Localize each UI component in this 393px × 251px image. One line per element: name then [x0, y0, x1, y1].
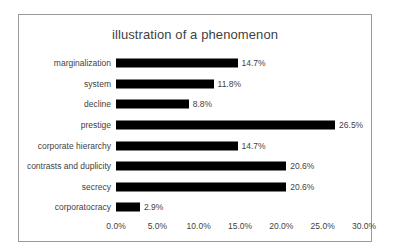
bar	[116, 100, 189, 109]
bar-value-label: 20.6%	[286, 161, 314, 171]
category-label: marginalization	[19, 58, 111, 68]
x-tick-label: 25.0%	[311, 221, 335, 231]
bar-track: 26.5%	[116, 115, 373, 136]
bar-track: 11.8%	[116, 74, 373, 95]
x-tick-label: 15.0%	[228, 221, 252, 231]
bar-track: 14.7%	[116, 53, 373, 74]
bar-value-label: 26.5%	[335, 120, 363, 130]
category-label: secrecy	[19, 182, 111, 192]
bar-row: prestige26.5%	[19, 115, 373, 136]
bar-value-label: 14.7%	[238, 141, 266, 151]
bar	[116, 162, 286, 171]
x-tick-label: 5.0%	[148, 221, 167, 231]
bar	[116, 121, 335, 130]
plot-area: marginalization14.7%system11.8%decline8.…	[19, 53, 373, 218]
x-tick-label: 0.0%	[106, 221, 125, 231]
category-label: decline	[19, 99, 111, 109]
bar	[116, 59, 238, 68]
bar-value-label: 8.8%	[189, 99, 212, 109]
bar-value-label: 2.9%	[140, 202, 163, 212]
category-label: corporate hierarchy	[19, 141, 111, 151]
bar	[116, 79, 214, 88]
bar-track: 8.8%	[116, 94, 373, 115]
category-label: corporatocracy	[19, 202, 111, 212]
bar-track: 2.9%	[116, 197, 373, 218]
bar-row: corporatocracy2.9%	[19, 197, 373, 218]
bar-track: 20.6%	[116, 156, 373, 177]
bar	[116, 182, 286, 191]
chart-container: illustration of a phenomenon marginaliza…	[18, 14, 372, 242]
x-tick-label: 10.0%	[187, 221, 211, 231]
bar-row: secrecy20.6%	[19, 177, 373, 198]
bar	[116, 203, 140, 212]
bar-row: decline8.8%	[19, 94, 373, 115]
bar-row: contrasts and duplicity20.6%	[19, 156, 373, 177]
bar-value-label: 20.6%	[286, 182, 314, 192]
x-tick-label: 30.0%	[352, 221, 376, 231]
bar-track: 20.6%	[116, 177, 373, 198]
category-label: prestige	[19, 120, 111, 130]
bar-track: 14.7%	[116, 135, 373, 156]
bar	[116, 141, 238, 150]
chart-title: illustration of a phenomenon	[19, 27, 371, 42]
category-label: contrasts and duplicity	[19, 161, 111, 171]
bar-value-label: 14.7%	[238, 58, 266, 68]
bar-row: marginalization14.7%	[19, 53, 373, 74]
bar-value-label: 11.8%	[214, 79, 241, 89]
bar-row: corporate hierarchy14.7%	[19, 135, 373, 156]
x-tick-label: 20.0%	[269, 221, 293, 231]
bar-row: system11.8%	[19, 74, 373, 95]
x-axis-tick-labels: 0.0%5.0%10.0%15.0%20.0%25.0%30.0%	[116, 221, 364, 235]
category-label: system	[19, 79, 111, 89]
